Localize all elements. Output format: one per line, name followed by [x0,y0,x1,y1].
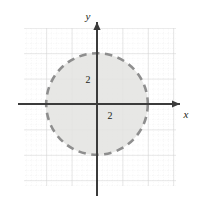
x-axis-label: x [183,108,189,120]
y-axis-arrowhead-icon [93,22,100,30]
coordinate-plane-svg: x y 2 2 [0,0,198,204]
x-tick-label-2: 2 [108,110,113,121]
y-tick-label-2: 2 [86,74,91,85]
graph-figure: x y 2 2 [0,0,198,204]
y-axis-label: y [85,10,91,22]
